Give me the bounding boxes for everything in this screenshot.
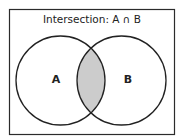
venn-diagram: Intersection: A ∩ B A B — [0, 0, 182, 140]
set-a-label: A — [52, 73, 61, 86]
set-b-label: B — [124, 73, 132, 86]
diagram-title: Intersection: A ∩ B — [43, 13, 141, 25]
